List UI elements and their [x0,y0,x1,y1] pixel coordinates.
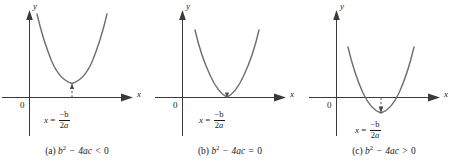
x-axis-arrowhead [121,94,133,102]
caption-term: 4ac [231,146,245,156]
vertex-formula: x = −b 2a [199,110,226,131]
formula-fraction: −b 2a [370,120,381,141]
x-axis-label: x [290,90,294,99]
caption-exponent: 2 [63,144,66,151]
y-axis-label: y [186,2,190,11]
caption-value: 0 [411,146,416,156]
caption-minus: − [68,146,75,156]
caption-term: 4ac [78,146,92,156]
formula-denominator: 2a [370,131,381,141]
formula-equals: = [50,115,55,125]
panel-c-svg [307,0,461,140]
denominator-variable: a [64,120,68,130]
y-axis-arrowhead [26,10,33,20]
panel-a-plot [0,0,154,140]
y-axis-label: y [340,2,344,11]
caption-index: (c) [352,146,363,156]
vertex-formula: x = −b 2a [355,120,382,141]
panel-c-caption: (c) b2 − 4ac > 0 [307,147,461,157]
panel-c-plot [307,0,461,140]
x-axis-arrowhead [274,94,286,102]
panel-a: y x 0 x = −b 2a (a) b2 − 4ac < 0 [0,0,154,164]
formula-denominator: 2a [214,121,225,131]
formula-denominator: 2a [59,121,70,131]
x-axis-arrowhead [428,94,440,102]
quadratic-discriminant-figure: y x 0 x = −b 2a (a) b2 − 4ac < 0 [0,0,461,164]
formula-numerator: −b [370,120,381,130]
formula-variable: x [199,115,203,125]
caption-relation: > [401,146,408,156]
parabola-curve [195,30,259,97]
caption-index: (b) [198,146,209,156]
panel-b: y x 0 x = −b 2a (b) b2 − 4ac = 0 [153,0,307,164]
formula-numerator: −b [214,110,225,120]
formula-variable: x [355,125,359,135]
panel-c: y x 0 x = −b 2a (c) b2 − 4ac > 0 [307,0,461,164]
origin-label: 0 [20,101,25,110]
denominator-variable: a [375,130,379,140]
origin-label: 0 [173,101,178,110]
caption-term: 4ac [385,146,399,156]
formula-numerator: −b [59,110,70,120]
formula-equals: = [205,115,210,125]
caption-value: 0 [104,146,109,156]
y-axis-arrowhead [333,10,340,20]
caption-exponent: 2 [370,144,373,151]
x-axis-label: x [444,90,448,99]
caption-value: 0 [257,146,262,156]
denominator-variable: a [219,120,223,130]
origin-label: 0 [327,101,332,110]
y-axis-arrowhead [179,10,186,20]
vertex-arrowhead [70,83,74,89]
panel-b-svg [153,0,307,140]
caption-exponent: 2 [216,144,219,151]
panel-a-svg [0,0,154,140]
formula-fraction: −b 2a [59,110,70,131]
caption-minus: − [375,146,382,156]
caption-minus: − [222,146,229,156]
formula-fraction: −b 2a [214,110,225,131]
y-axis-label: y [33,2,37,11]
formula-variable: x [44,115,48,125]
panel-b-plot [153,0,307,140]
vertex-formula: x = −b 2a [44,110,71,131]
panel-a-caption: (a) b2 − 4ac < 0 [0,147,154,157]
caption-index: (a) [45,146,56,156]
x-axis-label: x [137,90,141,99]
panel-b-caption: (b) b2 − 4ac = 0 [153,147,307,157]
formula-equals: = [361,125,366,135]
caption-relation: < [94,146,101,156]
parabola-curve [37,14,107,84]
caption-relation: = [248,146,255,156]
